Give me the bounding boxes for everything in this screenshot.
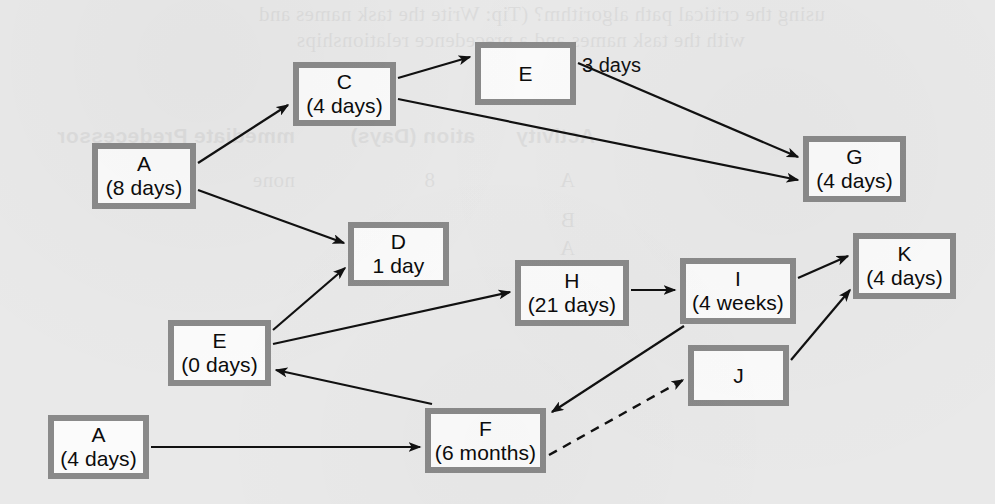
node-e0[interactable]: E(0 days): [168, 320, 271, 386]
node-j[interactable]: J: [688, 345, 789, 406]
node-id-label: H: [564, 269, 579, 293]
node-id-label: K: [897, 242, 911, 266]
node-duration-label: (8 days): [106, 176, 183, 200]
node-k4[interactable]: K(4 days): [853, 233, 956, 299]
edge-duration-label: 3 days: [582, 54, 641, 77]
edge-i-4-weeks--to-k-4-days-: [798, 256, 848, 278]
node-id-label: I: [735, 267, 741, 291]
node-duration-label: 1 day: [373, 254, 425, 278]
edge-i-4-weeks--to-f-6-months-: [552, 326, 684, 412]
node-duration-label: (4 days): [816, 169, 893, 193]
node-d1[interactable]: D1 day: [348, 222, 449, 286]
node-id-label: E: [212, 329, 226, 353]
edge-f-6-months--to-e-0-days-: [276, 370, 432, 404]
node-a4[interactable]: A(4 days): [48, 415, 149, 479]
edge-c-4-days--to-e: [398, 57, 470, 78]
node-g4[interactable]: G(4 days): [803, 136, 906, 202]
node-h21[interactable]: H(21 days): [515, 260, 629, 326]
node-duration-label: (4 days): [60, 447, 137, 471]
node-duration-label: (21 days): [528, 293, 616, 317]
node-id-label: E: [518, 62, 532, 86]
edge-a-8-days--to-c-4-days-: [198, 105, 288, 163]
node-id-label: A: [91, 423, 105, 447]
edge-f-6-months--to-j: [549, 380, 683, 455]
node-f6[interactable]: F(6 months): [425, 408, 546, 473]
node-duration-label: (6 months): [435, 441, 536, 465]
node-duration-label: (4 weeks): [692, 291, 784, 315]
edge-j-to-k-4-days-: [791, 290, 850, 360]
node-duration-label: (4 days): [306, 94, 383, 118]
node-id-label: C: [337, 70, 352, 94]
node-id-label: D: [391, 230, 406, 254]
node-c4[interactable]: C(4 days): [293, 62, 396, 126]
edge-a-8-days--to-d-1-day: [198, 190, 344, 243]
edge-c-4-days--to-g-4-days-: [398, 99, 798, 180]
node-id-label: G: [846, 145, 862, 169]
node-i4w[interactable]: I(4 weeks): [680, 258, 796, 324]
network-diagram-canvas: using the critical path algorithm? (Tip:…: [0, 0, 995, 504]
node-duration-label: (0 days): [181, 353, 258, 377]
node-a8[interactable]: A(8 days): [92, 143, 196, 209]
edge-e-0-days--to-d-1-day: [273, 268, 345, 330]
node-id-label: J: [733, 364, 744, 388]
node-id-label: F: [479, 417, 492, 441]
node-duration-label: (4 days): [866, 266, 943, 290]
node-id-label: A: [137, 152, 151, 176]
node-etop[interactable]: E: [475, 42, 576, 105]
